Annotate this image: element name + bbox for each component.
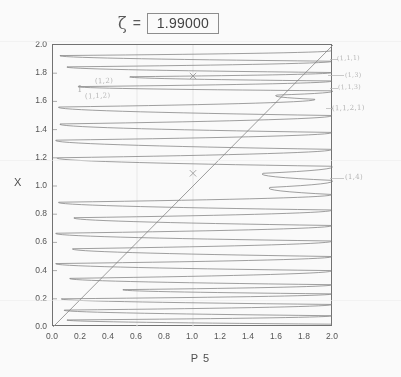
y-tick-label: 0.8 bbox=[35, 208, 47, 218]
x-tick-label: 0.0 bbox=[46, 331, 58, 341]
y-axis-label: X bbox=[14, 176, 21, 188]
scan-artifact bbox=[0, 41, 401, 42]
parameter-title: ζ = 1.99000 bbox=[118, 10, 298, 36]
x-tick-label: 1.4 bbox=[242, 331, 254, 341]
plot-window: ζ = 1.99000 bbox=[0, 0, 401, 377]
x-tick-label: 0.4 bbox=[102, 331, 114, 341]
plot-canvas bbox=[53, 45, 333, 327]
y-tick-label: 0.0 bbox=[35, 321, 47, 331]
y-tick-label: 1.8 bbox=[35, 67, 47, 77]
y-tick-label: 0.6 bbox=[35, 236, 47, 246]
x-tick-label: 0.2 bbox=[74, 331, 86, 341]
inner-ticks bbox=[53, 73, 57, 299]
annotation-left-bracket: I bbox=[78, 84, 82, 94]
x-tick-label: 2.0 bbox=[326, 331, 338, 341]
annotation-right-5: (1,4) bbox=[345, 173, 363, 181]
x-tick-label: 1.6 bbox=[270, 331, 282, 341]
equals-sign: = bbox=[133, 15, 141, 31]
x-tick-label: 1.8 bbox=[298, 331, 310, 341]
x-axis-ticks: 0.00.20.40.60.81.01.21.41.61.82.0 bbox=[52, 331, 332, 345]
annotation-leader-line bbox=[330, 178, 344, 179]
x-tick-label: 0.6 bbox=[130, 331, 142, 341]
scan-artifact bbox=[0, 300, 401, 301]
x-axis-label: P 5 bbox=[0, 352, 401, 364]
scan-artifact bbox=[0, 160, 401, 161]
annotation-left-upper: (1,2) bbox=[95, 77, 113, 86]
annotation-right-4: (1,1,2,1) bbox=[332, 104, 365, 113]
annotation-right-2: (1,3) bbox=[345, 71, 362, 78]
y-tick-label: 1.0 bbox=[35, 180, 47, 190]
annotation-left-lower: (1,1,2) bbox=[85, 91, 111, 100]
x-tick-label: 0.8 bbox=[158, 331, 170, 341]
y-tick-label: 0.2 bbox=[35, 293, 47, 303]
x-tick-label: 1.0 bbox=[186, 331, 198, 341]
annotation-leader-line bbox=[330, 88, 338, 89]
x-tick-label: 1.2 bbox=[214, 331, 226, 341]
annotation-right-1: (1,1,1) bbox=[337, 54, 360, 62]
y-tick-label: 1.6 bbox=[35, 95, 47, 105]
plot-area[interactable] bbox=[52, 44, 332, 326]
annotation-right-3: (1,1,3) bbox=[338, 83, 361, 90]
y-tick-label: 1.4 bbox=[35, 124, 47, 134]
zeta-value-field[interactable]: 1.99000 bbox=[147, 13, 219, 34]
y-tick-label: 0.4 bbox=[35, 265, 47, 275]
zeta-symbol: ζ bbox=[118, 14, 127, 33]
annotation-leader-line bbox=[328, 75, 344, 76]
